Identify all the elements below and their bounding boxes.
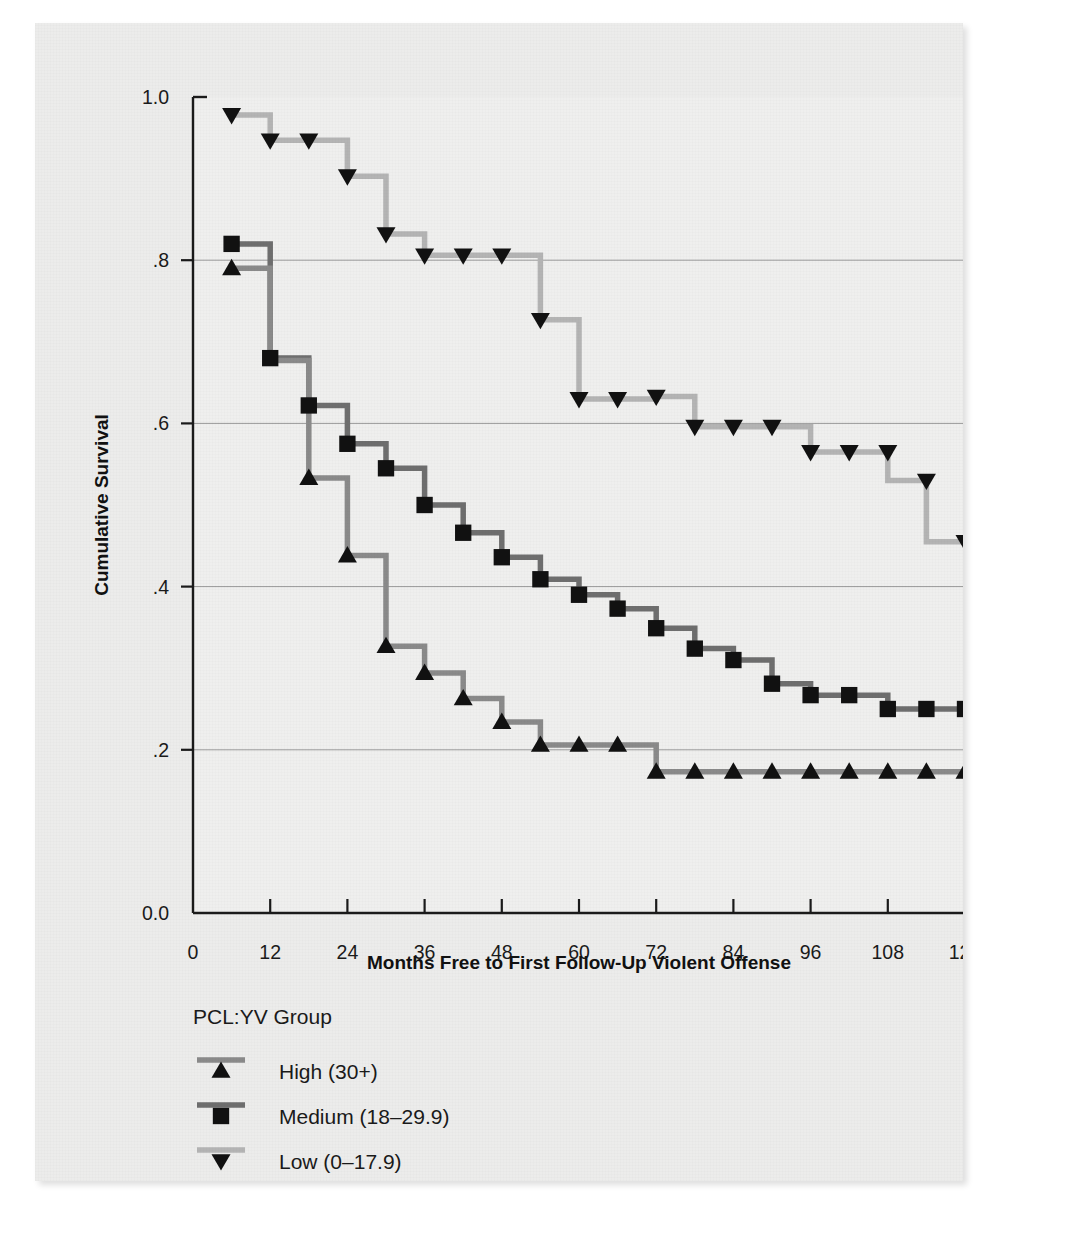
series-marker [416, 497, 432, 513]
legend-item: Medium (18–29.9) [197, 1105, 449, 1128]
y-tick-label: 0.0 [142, 902, 169, 924]
series-marker [532, 571, 548, 587]
series-marker [301, 397, 317, 413]
legend-label: Low (0–17.9) [279, 1150, 402, 1173]
series-marker [918, 701, 934, 717]
series-marker [262, 350, 278, 366]
x-tick-label: 96 [800, 941, 822, 963]
series-marker [764, 676, 780, 692]
y-axis-title: Cumulative Survival [91, 414, 112, 596]
series-marker [802, 687, 818, 703]
series-marker [378, 460, 394, 476]
y-tick-label: .2 [153, 739, 169, 761]
y-tick-label: .8 [153, 249, 169, 271]
plot-background [193, 97, 963, 913]
y-tick-labels: 0.0.2.4.6.81.0 [142, 86, 169, 924]
legend-marker [212, 1062, 231, 1078]
legend-marker [213, 1108, 229, 1124]
x-tick-label: 24 [337, 941, 359, 963]
series-marker [648, 620, 664, 636]
y-axis-ticks [181, 260, 193, 750]
x-axis-title: Months Free to First Follow-Up Violent O… [367, 952, 791, 973]
series-marker [494, 549, 510, 565]
legend-title: PCL:YV Group [193, 1005, 332, 1028]
series-marker [455, 525, 471, 541]
series-marker [880, 701, 896, 717]
chart-svg: 01224364860728496108120 0.0.2.4.6.81.0 M… [35, 23, 963, 1181]
y-tick-label: 1.0 [142, 86, 169, 108]
series-marker [223, 236, 239, 252]
series-marker [609, 600, 625, 616]
legend-label: High (30+) [279, 1060, 378, 1083]
y-tick-label: .6 [153, 412, 169, 434]
series-marker [571, 587, 587, 603]
x-tick-label: 0 [188, 941, 199, 963]
series-marker [725, 652, 741, 668]
y-tick-label: .4 [153, 576, 169, 598]
series-marker [841, 687, 857, 703]
series-marker [687, 640, 703, 656]
figure-panel: 01224364860728496108120 0.0.2.4.6.81.0 M… [35, 23, 963, 1181]
legend-label: Medium (18–29.9) [279, 1105, 449, 1128]
series-marker [339, 436, 355, 452]
x-tick-label: 108 [872, 941, 905, 963]
legend-marker [212, 1154, 231, 1170]
x-tick-label: 12 [259, 941, 281, 963]
x-tick-label: 120 [949, 941, 963, 963]
legend-item: Low (0–17.9) [197, 1150, 402, 1173]
legend-entries: High (30+)Medium (18–29.9)Low (0–17.9) [197, 1060, 449, 1173]
series-marker [957, 701, 963, 717]
legend-item: High (30+) [197, 1060, 378, 1083]
